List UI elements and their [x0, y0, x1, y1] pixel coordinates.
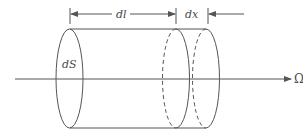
label-ds: dS	[62, 58, 77, 71]
label-dl: dl	[116, 8, 127, 21]
label-dx: dx	[185, 8, 199, 21]
label-omega: Ω	[294, 72, 303, 86]
cylinder-diagram: dl dx dS Ω	[0, 0, 303, 134]
